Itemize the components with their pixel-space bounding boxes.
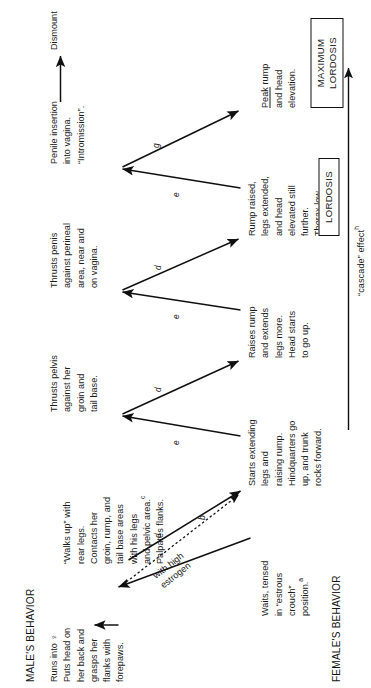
edge-label-m2-f2-d: d	[152, 533, 162, 538]
arrow-m3-to-f3	[122, 361, 238, 414]
cascade-effect-footnote-marker: h	[353, 226, 360, 230]
edge-label-f4-m5-e: e	[170, 192, 180, 197]
cascade-effect-text: “cascade” effect	[355, 230, 365, 296]
arrow-f4-to-m5	[122, 169, 240, 188]
mating-sequence-diagram: MALE'S BEHAVIOR FEMALE'S BEHAVIOR Runs i…	[0, 0, 371, 688]
edge-label-m5-f5-g: g	[150, 143, 160, 148]
figure-rotation-wrapper: MALE'S BEHAVIOR FEMALE'S BEHAVIOR Runs i…	[0, 0, 371, 688]
arrow-f2-to-m3	[122, 416, 240, 436]
edge-label-m4-f4-d: d	[152, 265, 162, 270]
edge-label-f3-m4-e: e	[170, 314, 180, 319]
arrow-f3-to-m4	[122, 292, 240, 310]
arrow-m2-to-f2	[128, 491, 240, 560]
arrow-m5-to-f5	[122, 111, 238, 167]
edge-label-estrogen-b: b	[196, 515, 206, 520]
arrow-m4-to-f4	[122, 239, 238, 290]
status-badge-maximum-lordosis: MAXIMUM LORDOSIS	[310, 18, 343, 108]
edge-label-m3-f3-d: d	[152, 387, 162, 392]
annotation-cascade-effect: “cascade” effecth	[355, 226, 365, 296]
edge-label-f2-m3-e: e	[170, 440, 180, 445]
status-badge-lordosis: LORDOSIS	[318, 158, 339, 236]
